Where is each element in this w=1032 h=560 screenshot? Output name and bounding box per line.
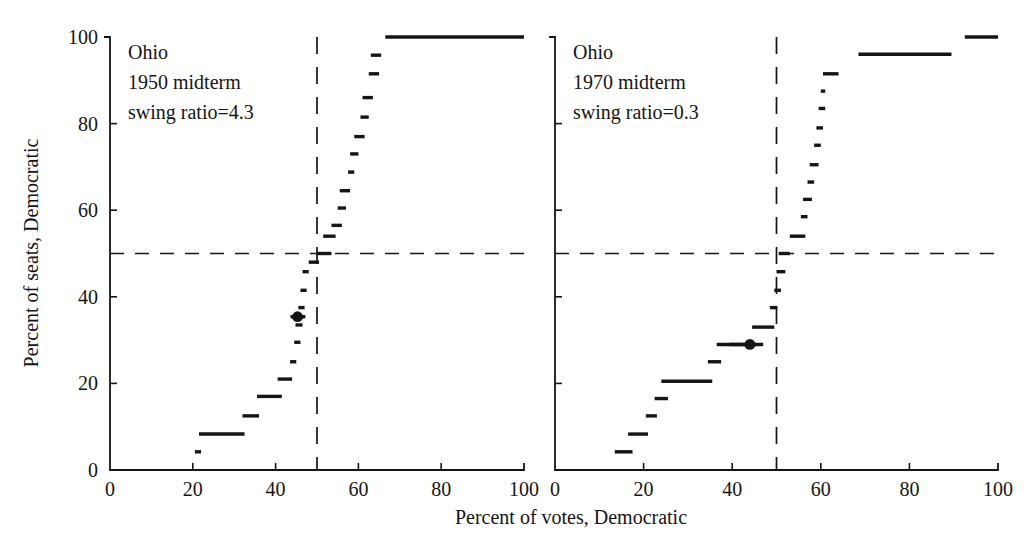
figure-canvas: 020406080100020406080100Ohio1950 midterm…: [0, 0, 1032, 560]
panel-annotation-line: Ohio: [128, 41, 168, 63]
y-tick-label: 0: [88, 459, 98, 481]
x-tick-label: 20: [634, 478, 654, 500]
y-tick-label: 40: [78, 286, 98, 308]
x-tick-label: 40: [266, 478, 286, 500]
panel-annotation-line: swing ratio=0.3: [573, 101, 699, 124]
x-tick-label: 60: [811, 478, 831, 500]
observed-point-marker: [745, 339, 756, 350]
y-tick-label: 20: [78, 372, 98, 394]
y-tick-label: 60: [78, 199, 98, 221]
series-steps: [195, 37, 524, 452]
x-tick-label: 80: [899, 478, 919, 500]
y-axis-title: Percent of seats, Democratic: [20, 138, 42, 367]
y-tick-label: 80: [78, 113, 98, 135]
x-axis-title: Percent of votes, Democratic: [455, 506, 687, 528]
x-tick-label: 20: [183, 478, 203, 500]
x-tick-label: 0: [550, 478, 560, 500]
y-tick-label: 100: [68, 26, 98, 48]
x-tick-label: 0: [105, 478, 115, 500]
panel-annotation-line: 1950 midterm: [128, 71, 241, 93]
panel-annotation-line: 1970 midterm: [573, 71, 686, 93]
panel-1: 020406080100Ohio1970 midtermswing ratio=…: [549, 37, 1013, 500]
panel-0: 020406080100020406080100Ohio1950 midterm…: [68, 26, 539, 500]
x-tick-label: 100: [509, 478, 539, 500]
x-tick-label: 80: [431, 478, 451, 500]
x-tick-label: 100: [983, 478, 1013, 500]
x-tick-label: 60: [348, 478, 368, 500]
series-steps: [615, 37, 998, 452]
panel-annotation-line: swing ratio=4.3: [128, 101, 254, 124]
panel-annotation-line: Ohio: [573, 41, 613, 63]
seats-votes-figure: 020406080100020406080100Ohio1950 midterm…: [0, 0, 1032, 560]
x-tick-label: 40: [722, 478, 742, 500]
observed-point-marker: [292, 311, 303, 322]
